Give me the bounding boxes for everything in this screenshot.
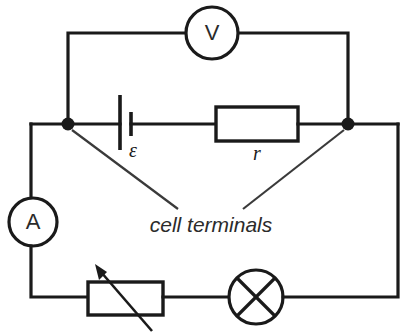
- wire-left-rail-lower-to-rheostat: [31, 246, 88, 297]
- voltmeter-branch: V: [68, 7, 348, 124]
- leader-line-left-terminal: [72, 130, 178, 209]
- voltmeter-label: V: [205, 20, 220, 45]
- right-terminal-node-dot: [342, 118, 355, 131]
- internal-resistance-label: r: [253, 142, 261, 164]
- wire-lamp-to-right-rail: [283, 124, 398, 297]
- internal-resistance-box: [216, 107, 298, 141]
- cell-emf-label: ε: [129, 139, 137, 161]
- cell-terminals-label: cell terminals: [150, 213, 273, 236]
- ammeter-label: A: [26, 209, 41, 234]
- cell-terminals-callout: cell terminals: [72, 130, 344, 236]
- wire-left-node-to-voltmeter: [68, 33, 186, 124]
- circuit-diagram: V ε r: [0, 0, 405, 333]
- circuit-canvas: V ε r: [0, 0, 405, 333]
- left-terminal-node-dot: [62, 118, 75, 131]
